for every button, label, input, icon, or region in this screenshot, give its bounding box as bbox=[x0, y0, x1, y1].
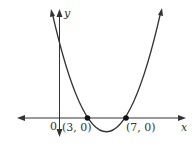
y-axis-label: y bbox=[63, 7, 71, 20]
point-3-0 bbox=[85, 115, 91, 121]
x-axis-left-arrow-icon bbox=[17, 115, 25, 121]
point-7-0 bbox=[123, 115, 129, 121]
point2-label: (7, 0) bbox=[126, 121, 156, 134]
x-axis-label: x bbox=[181, 121, 188, 134]
origin-label: 0 bbox=[50, 120, 57, 133]
x-axis bbox=[17, 115, 186, 121]
y-axis-up-arrow-icon bbox=[57, 9, 63, 17]
parabola-curve bbox=[52, 11, 161, 132]
curve-left-arrow-icon bbox=[50, 9, 55, 17]
parabola-graph: y x 0 (3, 0) (7, 0) bbox=[0, 0, 195, 146]
point1-label: (3, 0) bbox=[62, 121, 92, 134]
curve-right-arrow-icon bbox=[158, 8, 163, 16]
